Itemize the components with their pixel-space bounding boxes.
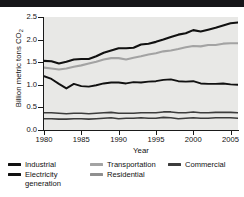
x-axis-title: Year <box>44 146 238 155</box>
legend-item-industrial[interactable]: Industrial <box>8 160 90 169</box>
x-tick-label: 1985 <box>66 136 96 144</box>
legend-row: ElectricitygenerationResidential <box>8 170 240 188</box>
y-tick-mark <box>38 62 43 63</box>
x-tick-label: 2000 <box>178 136 208 144</box>
x-tick-label: 1995 <box>141 136 171 144</box>
chart-figure: 0.00.51.01.52.02.5 198019851990199520002… <box>0 7 244 197</box>
series-line-commercial <box>44 112 238 114</box>
legend-swatch-icon <box>90 163 103 166</box>
legend-swatch-icon <box>8 173 21 176</box>
legend-label: Electricitygeneration <box>25 170 61 188</box>
series-line-transportation <box>44 43 238 69</box>
legend-label: Commercial <box>185 160 226 169</box>
legend-item-residential[interactable]: Residential <box>90 170 168 179</box>
x-tick-label: 2005 <box>216 136 244 144</box>
y-axis-line <box>43 17 44 131</box>
x-tick-label: 1980 <box>29 136 59 144</box>
y-tick-mark <box>38 40 43 41</box>
legend-item-commercial[interactable]: Commercial <box>168 160 240 169</box>
y-axis-title: Billion metric tons CO2 <box>14 8 25 128</box>
x-tick-label: 1990 <box>104 136 134 144</box>
chart-legend: IndustrialTransportationCommercialElectr… <box>8 160 240 189</box>
legend-label: Industrial <box>25 160 56 169</box>
legend-row: IndustrialTransportationCommercial <box>8 160 240 169</box>
top-border-bar <box>0 0 244 7</box>
series-line-electricity-generation <box>44 22 238 63</box>
series-line-residential <box>44 117 238 119</box>
legend-label: Transportation <box>107 160 156 169</box>
plot-lines-svg <box>44 17 238 130</box>
legend-item-electricity[interactable]: Electricitygeneration <box>8 170 90 188</box>
legend-label-line2: generation <box>25 179 61 188</box>
plot-area <box>44 17 238 130</box>
legend-swatch-icon <box>90 173 103 176</box>
y-tick-mark <box>38 130 43 131</box>
legend-item-transportation[interactable]: Transportation <box>90 160 168 169</box>
y-tick-mark <box>38 107 43 108</box>
legend-swatch-icon <box>8 163 21 166</box>
x-axis-line <box>43 130 239 131</box>
legend-swatch-icon <box>168 163 181 166</box>
y-tick-mark <box>38 17 43 18</box>
legend-label: Residential <box>107 170 145 179</box>
y-tick-mark <box>38 85 43 86</box>
series-line-industrial <box>44 76 238 88</box>
